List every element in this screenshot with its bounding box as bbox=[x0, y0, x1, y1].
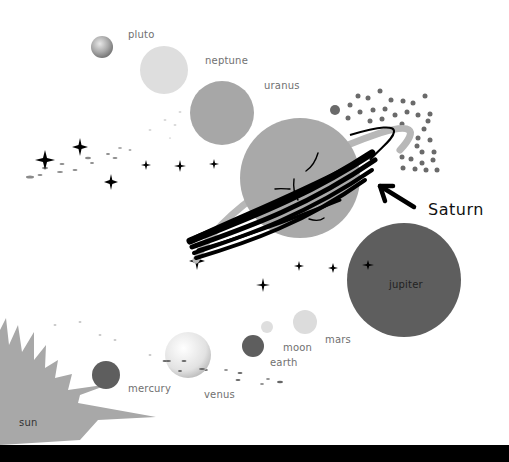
dust-trail-inner bbox=[54, 321, 152, 355]
diagram-artwork bbox=[0, 0, 509, 462]
earth-label: earth bbox=[270, 357, 298, 368]
jupiter-label: jupiter bbox=[389, 279, 423, 290]
dust-trail bbox=[26, 111, 182, 178]
sun-label: sun bbox=[19, 417, 38, 428]
neptune-label: neptune bbox=[205, 55, 248, 66]
mars-label: mars bbox=[325, 334, 351, 345]
pluto-label: pluto bbox=[128, 29, 155, 40]
venus-label: venus bbox=[204, 389, 235, 400]
solar-system-diagram: pluto neptune uranus Saturn jupiter mars… bbox=[0, 0, 509, 462]
mercury-label: mercury bbox=[128, 383, 171, 394]
bottom-bar bbox=[0, 445, 509, 462]
mars-planet bbox=[293, 310, 317, 334]
earth-planet bbox=[242, 335, 264, 357]
mercury-planet bbox=[92, 361, 120, 389]
moon-label: moon bbox=[283, 342, 312, 353]
saturn-label: Saturn bbox=[428, 200, 484, 219]
uranus-label: uranus bbox=[264, 80, 300, 91]
saturn-arrow-icon bbox=[380, 186, 414, 207]
venus-planet bbox=[165, 332, 211, 378]
uranus-planet bbox=[190, 81, 254, 145]
pluto-planet bbox=[91, 36, 113, 58]
moon-planet bbox=[261, 321, 273, 333]
neptune-planet bbox=[140, 46, 188, 94]
